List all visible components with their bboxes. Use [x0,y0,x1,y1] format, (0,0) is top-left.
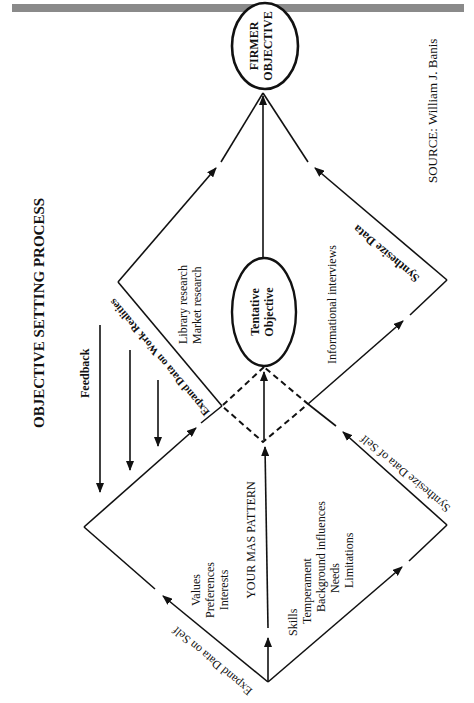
tentative-objective-line1: Tentative [248,288,262,336]
self-list-background: Background influences [314,501,328,612]
self-list-preferences: Preferences [203,562,217,618]
transition-dashed-diamond [222,367,308,442]
self-list-limitations: Limitations [342,532,356,588]
self-list-interests: Interests [217,569,231,610]
firmer-objective-node: FIRMER OBJECTIVE [232,3,298,89]
self-list-values: Values [189,574,203,606]
center-label-mas-pattern: YOUR MAS PATTERN [244,481,258,599]
firmer-objective-line1: FIRMER [247,21,261,70]
work-list-informational: Informational interviews [325,245,339,364]
feedback-label: Feedback [78,348,92,398]
objective-setting-diagram: OBJECTIVE SETTING PROCESS SOURCE: Willia… [0,0,474,703]
tentative-objective-node: Tentative Objective [232,258,296,366]
self-list-temperament: Temperament [300,558,314,624]
source-credit: SOURCE: William J. Banis [425,39,440,183]
firmer-objective-line2: OBJECTIVE [261,11,275,80]
work-list-library: Library research [176,265,190,344]
self-diamond [84,404,447,682]
edge-label-synthesize-self: Synthesize Data of Self [357,432,453,515]
diagram-title: OBJECTIVE SETTING PROCESS [31,198,47,428]
work-list-market: Market research [190,266,204,344]
self-list-needs: Needs [328,563,342,593]
tentative-objective-line2: Objective [262,287,276,337]
self-list-skills: Skills [286,608,300,636]
edge-label-synthesize: Synthesize Data [350,222,422,285]
